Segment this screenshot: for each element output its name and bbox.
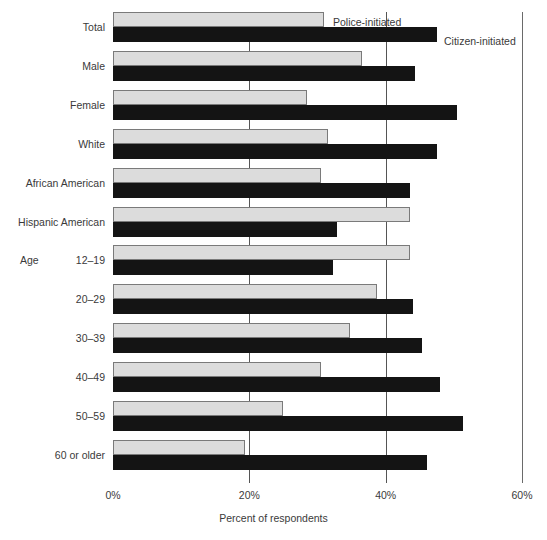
legend-label-police-initiated: Police-initiated	[333, 16, 401, 28]
bar-citizen-initiated	[113, 299, 413, 314]
plot-area	[113, 12, 522, 483]
bar-police-initiated	[113, 168, 321, 183]
category-label: Total	[5, 21, 105, 33]
bar-police-initiated	[113, 440, 245, 455]
bar-citizen-initiated	[113, 144, 437, 159]
x-tick-20pct: 20%	[239, 489, 260, 501]
bar-citizen-initiated	[113, 416, 463, 431]
category-label: White	[5, 138, 105, 150]
bar-citizen-initiated	[113, 27, 437, 42]
bar-citizen-initiated	[113, 377, 440, 392]
category-label: 60 or older	[5, 449, 105, 461]
bar-citizen-initiated	[113, 222, 337, 237]
category-axis-labels: TotalMaleFemaleWhiteAfrican AmericanHisp…	[0, 0, 105, 540]
x-axis-title: Percent of respondents	[0, 512, 547, 524]
bar-citizen-initiated	[113, 260, 333, 275]
bar-citizen-initiated	[113, 105, 457, 120]
age-group-label: Age	[20, 254, 39, 266]
category-label: 30–39	[5, 332, 105, 344]
bar-citizen-initiated	[113, 455, 427, 470]
category-label: 40–49	[5, 371, 105, 383]
category-label: 50–59	[5, 410, 105, 422]
bar-citizen-initiated	[113, 338, 422, 353]
x-tick-0pct: 0%	[105, 489, 120, 501]
bar-citizen-initiated	[113, 183, 410, 198]
x-tick-60pct: 60%	[511, 489, 532, 501]
bar-police-initiated	[113, 207, 410, 222]
category-label: 20–29	[5, 293, 105, 305]
bar-chart: TotalMaleFemaleWhiteAfrican AmericanHisp…	[0, 0, 547, 540]
category-label: Female	[5, 99, 105, 111]
bar-police-initiated	[113, 245, 410, 260]
x-tick-40pct: 40%	[375, 489, 396, 501]
bar-police-initiated	[113, 284, 377, 299]
bar-police-initiated	[113, 401, 283, 416]
category-label: African American	[5, 177, 105, 189]
bar-police-initiated	[113, 51, 362, 66]
category-label: Hispanic American	[5, 216, 105, 228]
bar-police-initiated	[113, 90, 307, 105]
bar-police-initiated	[113, 323, 350, 338]
bar-police-initiated	[113, 12, 324, 27]
bar-police-initiated	[113, 362, 321, 377]
bar-police-initiated	[113, 129, 328, 144]
legend-label-citizen-initiated: Citizen-initiated	[444, 35, 516, 47]
gridline-60pct	[522, 12, 523, 483]
bar-citizen-initiated	[113, 66, 415, 81]
category-label: Male	[5, 60, 105, 72]
